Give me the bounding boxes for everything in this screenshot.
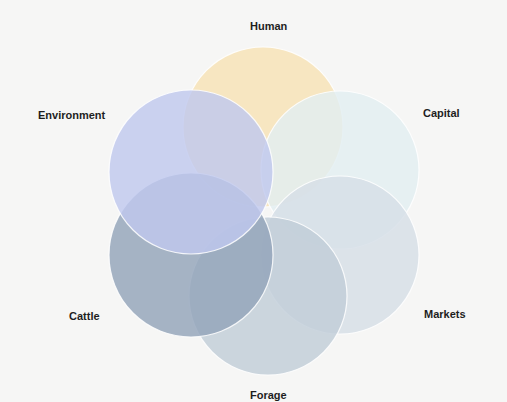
label-human: Human	[250, 21, 287, 32]
diagram-canvas: Human Environment Capital Cattle Markets…	[0, 0, 507, 402]
label-markets: Markets	[424, 309, 466, 320]
label-environment: Environment	[38, 110, 105, 121]
circle-environment	[109, 90, 273, 254]
label-forage: Forage	[250, 390, 287, 401]
venn-diagram	[0, 0, 507, 402]
label-capital: Capital	[423, 108, 460, 119]
circle-group	[109, 47, 419, 375]
label-cattle: Cattle	[69, 311, 100, 322]
